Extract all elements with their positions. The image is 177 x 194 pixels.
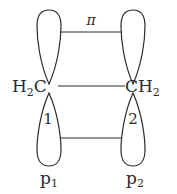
left-upper-lobe: [37, 10, 61, 84]
orbital-label-p2: p2: [126, 168, 144, 190]
pi-label: π: [85, 12, 96, 28]
right-upper-lobe: [121, 10, 145, 84]
left-carbon-group: H2C: [12, 76, 47, 99]
pi-bond-diagram: π H2C CH2 1 2 p1 p2: [0, 0, 177, 194]
right-carbon-group: CH2: [125, 76, 160, 99]
lobe-label-1: 1: [43, 110, 53, 128]
lobe-label-2: 2: [128, 110, 138, 128]
orbital-label-p1: p1: [40, 168, 58, 190]
right-lower-lobe: [121, 93, 145, 166]
left-lower-lobe: [37, 93, 61, 166]
